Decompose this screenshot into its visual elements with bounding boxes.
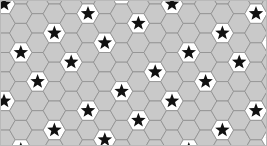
tiling-canvas bbox=[0, 0, 267, 146]
hexagon-star-tiling-figure bbox=[0, 0, 267, 146]
